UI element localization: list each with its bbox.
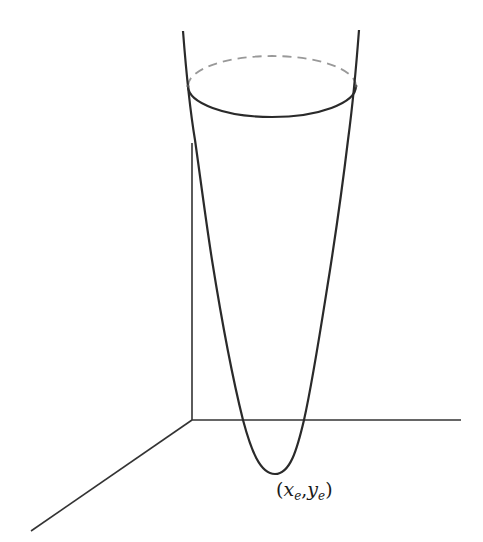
vertex-label: (xe,ye) xyxy=(276,478,333,503)
x-axis xyxy=(31,420,192,531)
paraboloid-curve xyxy=(183,30,359,474)
vertex-label-close: ) xyxy=(325,478,332,500)
cross-section-back-dashed xyxy=(188,56,356,86)
cross-section-front xyxy=(188,86,356,117)
vertex-label-y: y xyxy=(307,478,318,500)
paraboloid-diagram xyxy=(0,0,483,542)
vertex-label-x: x xyxy=(283,478,294,500)
junction-left xyxy=(187,85,190,88)
junction-right xyxy=(355,85,358,88)
